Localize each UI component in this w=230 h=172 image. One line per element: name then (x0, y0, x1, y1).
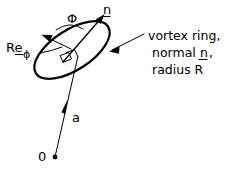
annotation-line-3: radius R (152, 62, 204, 77)
radius-vector-subscript: ϕ (23, 48, 30, 61)
radius-vector-label-group: Re ϕ (6, 40, 30, 61)
normal-label-group: n (102, 2, 111, 17)
angle-label: Φ (67, 11, 77, 26)
annotation-line-2-suffix: , (209, 45, 213, 60)
annotation-block: vortex ring, normal n , radius R (148, 28, 220, 77)
annotation-line-2-symbol: n (200, 45, 208, 60)
annotation-line-1: vortex ring, (148, 28, 220, 43)
diagram-canvas: Φ n Re ϕ a 0 vortex ring, normal n , rad… (0, 0, 230, 172)
origin-dot (53, 155, 58, 160)
callout-leader-arrow (109, 34, 144, 54)
position-vector-arrow (55, 56, 78, 157)
radius-vector-label: Re (6, 40, 22, 55)
origin-label: 0 (38, 149, 46, 164)
annotation-line-2-prefix: normal (152, 45, 196, 60)
position-vector-label: a (72, 110, 80, 125)
vortex-ring-figure: Φ n Re ϕ a 0 vortex ring, normal n , rad… (0, 0, 230, 172)
normal-label: n (103, 2, 111, 17)
